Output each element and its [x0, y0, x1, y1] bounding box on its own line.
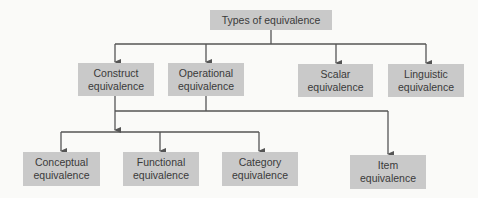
node-label-line1: Construct: [88, 67, 144, 80]
node-types-of-equivalence: Types of equivalence: [210, 10, 332, 30]
node-label-line2: equivalence: [307, 81, 363, 94]
node-label-line1: Operational: [178, 67, 234, 80]
node-label-line1: Functional: [133, 156, 189, 169]
node-label-line2: equivalence: [88, 80, 144, 93]
node-label: Types of equivalence: [222, 14, 321, 27]
node-item-equivalence: Item equivalence: [350, 155, 426, 189]
node-label-line2: equivalence: [398, 81, 454, 94]
node-construct-equivalence: Construct equivalence: [78, 63, 154, 96]
node-label-line1: Conceptual: [33, 156, 89, 169]
node-label-line1: Scalar: [307, 68, 363, 81]
equivalence-diagram: Types of equivalence Construct equivalen…: [0, 0, 478, 198]
node-label-line2: equivalence: [178, 80, 234, 93]
node-label-line2: equivalence: [133, 169, 189, 182]
node-label-line2: equivalence: [33, 169, 89, 182]
node-label-line1: Linguistic: [398, 68, 454, 81]
node-category-equivalence: Category equivalence: [222, 152, 298, 186]
node-conceptual-equivalence: Conceptual equivalence: [23, 152, 100, 186]
node-label-line2: equivalence: [232, 169, 288, 182]
node-functional-equivalence: Functional equivalence: [123, 152, 199, 186]
node-label-line1: Item: [360, 159, 416, 172]
node-operational-equivalence: Operational equivalence: [168, 63, 244, 96]
node-scalar-equivalence: Scalar equivalence: [298, 64, 373, 97]
node-label-line1: Category: [232, 156, 288, 169]
node-linguistic-equivalence: Linguistic equivalence: [388, 64, 464, 97]
node-label-line2: equivalence: [360, 172, 416, 185]
